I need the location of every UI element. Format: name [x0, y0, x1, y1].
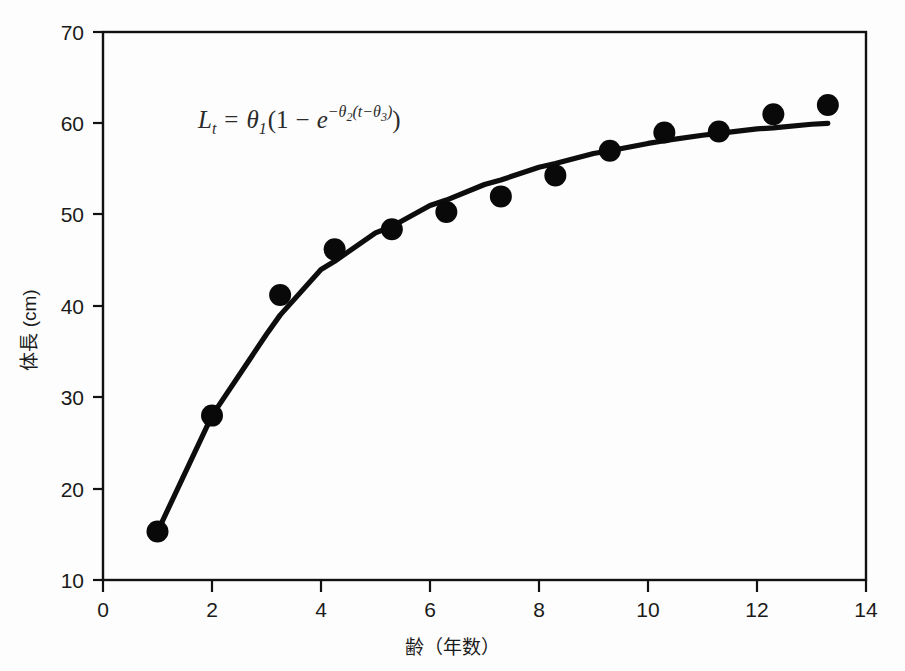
- data-point: [435, 201, 457, 223]
- data-point: [147, 521, 169, 543]
- eq-exp-minus: −: [328, 103, 339, 120]
- eq-minus: −: [296, 106, 310, 133]
- x-tick-label: 4: [315, 598, 327, 621]
- data-point: [490, 185, 512, 207]
- data-point: [269, 284, 291, 306]
- y-tick-label: 20: [61, 478, 84, 501]
- data-point: [544, 164, 566, 186]
- y-tick-label: 70: [61, 21, 84, 44]
- x-tick-label: 10: [636, 598, 659, 621]
- data-point: [653, 121, 675, 143]
- eq-theta1: θ: [246, 106, 258, 133]
- eq-equals: =: [224, 106, 238, 133]
- y-tick-label: 40: [61, 295, 84, 318]
- data-point: [381, 218, 403, 240]
- data-point: [324, 238, 346, 260]
- eq-exp-minus2: −: [362, 103, 373, 120]
- y-axis-title: 体長 (cm): [19, 289, 40, 370]
- y-tick-label: 10: [61, 569, 84, 592]
- eq-theta3-subscript: 3: [380, 110, 387, 124]
- x-tick-label: 6: [424, 598, 436, 621]
- x-axis-title: 齢（年数）: [405, 637, 500, 658]
- eq-one: 1: [276, 106, 289, 133]
- x-tick-label: 14: [854, 598, 878, 621]
- y-tick-label: 60: [61, 112, 84, 135]
- figure-background: [0, 0, 905, 671]
- data-point: [201, 405, 223, 427]
- y-tick-label: 30: [61, 386, 84, 409]
- eq-theta2: θ: [339, 103, 347, 120]
- eq-lhs-var: L: [197, 106, 212, 133]
- x-tick-label: 2: [206, 598, 218, 621]
- eq-theta1-subscript: 1: [259, 120, 267, 137]
- data-point: [817, 94, 839, 116]
- growth-curve-chart: 70 60 50 40 30 20 10 0 2 4 6 8 10: [0, 0, 905, 671]
- eq-theta3: θ: [373, 103, 381, 120]
- x-tick-label: 0: [97, 598, 109, 621]
- eq-open-paren: (: [268, 106, 276, 134]
- y-tick-label: 50: [61, 203, 84, 226]
- x-tick-label: 12: [745, 598, 768, 621]
- x-tick-label: 8: [533, 598, 545, 621]
- eq-lhs-subscript: t: [212, 120, 217, 137]
- eq-e: e: [317, 106, 328, 133]
- eq-close-paren: ): [392, 106, 400, 134]
- chart-figure: 70 60 50 40 30 20 10 0 2 4 6 8 10: [0, 0, 905, 671]
- data-point: [599, 140, 621, 162]
- data-point: [708, 121, 730, 143]
- data-point: [762, 103, 784, 125]
